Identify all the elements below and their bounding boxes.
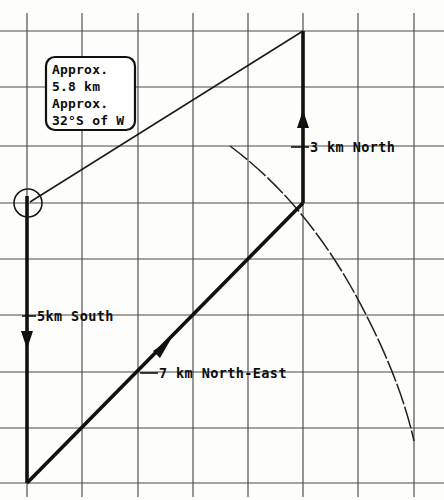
label-north-group: 3 km North <box>291 139 395 155</box>
callout-line-2: 5.8 km <box>52 79 100 94</box>
label-south-group: 5km South <box>22 308 114 324</box>
label-north-text: 3 km North <box>310 139 395 155</box>
label-northeast-text: 7 km North-East <box>159 365 287 381</box>
arrow-head-north <box>297 110 309 128</box>
arrow-head-northeast <box>153 339 171 358</box>
callout-line-1: Approx. <box>52 62 108 77</box>
label-northeast-group: 7 km North-East <box>140 365 287 381</box>
compass-arc <box>230 146 414 441</box>
vector-south <box>21 196 33 483</box>
vector-diagram: 3 km North 5km South 7 km North-East App… <box>0 0 444 500</box>
vector-north <box>297 31 309 203</box>
vector-northeast <box>27 203 303 483</box>
arrow-head-south <box>21 331 33 349</box>
callout-line-4: 32°S of W <box>52 113 124 128</box>
resultant-annotation-callout: Approx. 5.8 km Approx. 32°S of W <box>46 57 135 130</box>
label-south-text: 5km South <box>37 308 114 324</box>
diagram-canvas: 3 km North 5km South 7 km North-East App… <box>0 0 444 500</box>
callout-line-3: Approx. <box>52 96 108 111</box>
